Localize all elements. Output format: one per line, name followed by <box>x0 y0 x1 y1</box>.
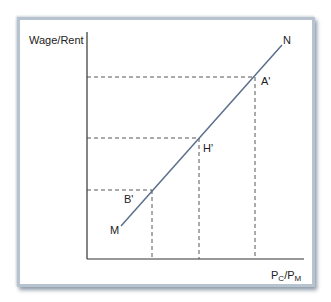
x-axis-label: PC/PM <box>271 269 302 283</box>
diagram-canvas: Wage/Rent N M A' H' B' PC/PM <box>0 0 331 302</box>
label-h-prime: H' <box>203 142 213 154</box>
label-m: M <box>110 224 119 236</box>
label-n: N <box>283 34 291 46</box>
label-b-prime: B' <box>124 193 133 205</box>
mn-line <box>121 45 282 226</box>
y-axis-label: Wage/Rent <box>29 34 84 46</box>
label-a-prime: A' <box>261 75 270 87</box>
